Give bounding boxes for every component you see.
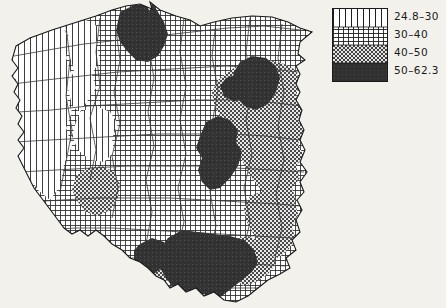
- map-legend: 24.8–30 30–40 40–50 50–62.3: [332, 8, 442, 84]
- legend-label-0: 24.8–30: [394, 11, 439, 22]
- legend-swatch-2: [333, 45, 387, 63]
- figure-root: 24.8–30 30–40 40–50 50–62.3: [0, 0, 446, 308]
- legend-label-3: 50–62.3: [394, 65, 439, 76]
- legend-swatch-box: [332, 8, 388, 82]
- legend-swatches: [333, 9, 387, 81]
- legend-swatch-3: [333, 63, 387, 81]
- legend-label-1: 30–40: [394, 29, 428, 40]
- legend-swatch-1: [333, 27, 387, 45]
- legend-swatch-0: [333, 9, 387, 27]
- legend-label-2: 40–50: [394, 47, 428, 58]
- legend-label-column: 24.8–30 30–40 40–50 50–62.3: [394, 8, 446, 82]
